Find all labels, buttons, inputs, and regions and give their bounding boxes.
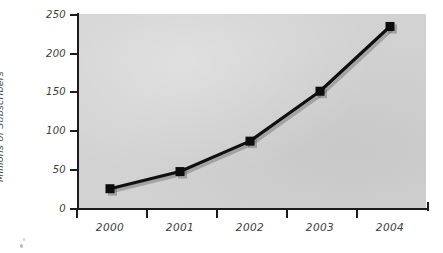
data-point-marker — [386, 22, 395, 31]
data-point-marker — [106, 184, 115, 193]
series-marker-shadows — [108, 24, 397, 195]
series-line — [110, 26, 390, 188]
data-point-marker — [246, 137, 255, 146]
series-line-shadow — [113, 29, 393, 191]
paper-speck — [20, 244, 23, 248]
paper-speck — [23, 238, 25, 241]
data-point-marker — [176, 167, 185, 176]
data-point-marker — [316, 87, 325, 96]
chart-screenshot: Millions of Subscribers 0 50 100 150 200… — [0, 0, 443, 253]
series-markers — [106, 22, 395, 193]
series-layer — [0, 0, 443, 253]
